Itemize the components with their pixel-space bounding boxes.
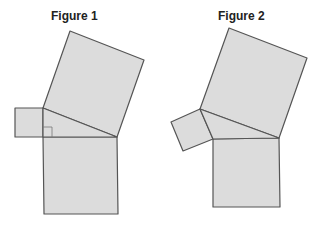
figure-1: [15, 31, 144, 214]
diagram-canvas: [0, 0, 320, 226]
figure-1-bottom-square: [43, 137, 118, 214]
figure-2-bottom-square: [213, 138, 280, 207]
figure-1-small-square: [15, 108, 43, 137]
figure-2: [171, 28, 307, 207]
